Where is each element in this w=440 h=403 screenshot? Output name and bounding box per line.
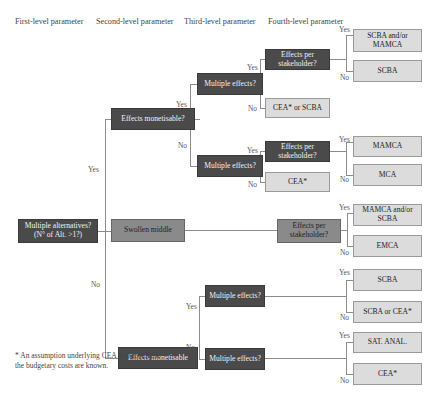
connector: [346, 280, 347, 312]
header-fourth-level: Fourth-level parameter: [268, 17, 343, 26]
label-yes: Yes: [339, 331, 350, 340]
label-no: No: [340, 248, 349, 257]
connector: [346, 342, 353, 343]
label-yes: Yes: [176, 100, 187, 109]
node-swollen-middle: Swollen middle: [111, 219, 185, 242]
connector: [190, 166, 197, 167]
label-no: No: [340, 313, 349, 322]
node-effects-per-stakeholder-2: Effects per stakeholder?: [265, 141, 330, 162]
connector: [330, 151, 346, 152]
label-yes: Yes: [339, 25, 350, 34]
connector: [346, 374, 353, 375]
label-yes: Yes: [339, 203, 350, 212]
outcome-scba-or-cea: SCBA or CEA*: [353, 301, 422, 323]
connector: [195, 119, 200, 120]
node-effects-per-stakeholder-1: Effects per stakeholder?: [265, 49, 330, 70]
label-yes: Yes: [247, 146, 258, 155]
outcome-scba-and-or-mamca: SCBA and/or MAMCA: [353, 29, 422, 52]
outcome-scba-1: SCBA: [353, 60, 422, 82]
label-yes: Yes: [88, 165, 99, 174]
label-no: No: [248, 180, 257, 189]
node-multiple-effects-1: Multiple effects?: [197, 73, 263, 95]
label-yes: Yes: [339, 268, 350, 277]
node-effects-per-stakeholder-3: Effects per stakeholder?: [277, 219, 341, 243]
footnote: * An assumption underlying CEA is that a…: [15, 351, 165, 371]
header-third-level: Third-level parameter: [184, 17, 256, 26]
header-first-level: First-level parameter: [15, 17, 83, 26]
connector: [265, 296, 346, 297]
outcome-emca: EMCA: [353, 235, 422, 257]
label-yes: Yes: [247, 63, 258, 72]
connector: [346, 342, 347, 374]
node-cea: CEA*: [265, 172, 330, 192]
connector: [346, 142, 347, 175]
node-cea-or-scba: CEA* or SCBA: [265, 98, 330, 118]
outcome-scba-2: SCBA: [353, 269, 422, 291]
outcome-mca: MCA: [353, 164, 422, 186]
label-no: No: [186, 343, 195, 352]
label-no: No: [248, 104, 257, 113]
connector: [265, 358, 346, 359]
outcome-mamca-and-or-scba: MAMCA and/or SCBA: [353, 204, 422, 226]
header-second-level: Second-level parameter: [96, 17, 174, 26]
connector: [98, 231, 105, 232]
label-no: No: [340, 376, 349, 385]
label-no: No: [91, 280, 100, 289]
connector: [346, 35, 353, 36]
label-no: No: [340, 175, 349, 184]
node-multiple-effects-4: Multiple effects?: [205, 348, 265, 370]
outcome-cea: CEA*: [353, 363, 422, 385]
connector: [346, 71, 353, 72]
connector: [199, 296, 200, 359]
connector: [330, 59, 346, 60]
connector: [185, 230, 277, 231]
label-yes: Yes: [339, 135, 350, 144]
connector: [190, 84, 197, 85]
outcome-sat-anal: SAT. ANAL.: [353, 332, 422, 353]
label-yes: Yes: [186, 302, 197, 311]
node-multiple-effects-3: Multiple effects?: [205, 285, 265, 307]
node-multiple-alternatives: Multiple alternatives? (N° of Alt. >1?): [18, 219, 98, 243]
node-effects-monetisable-question: Effects monetisable?: [111, 108, 195, 130]
node-multiple-effects-2: Multiple effects?: [197, 155, 263, 177]
connector: [347, 213, 348, 246]
label-no: No: [178, 141, 187, 150]
outcome-mamca: MAMCA: [353, 136, 422, 157]
connector: [346, 35, 347, 72]
label-no: No: [340, 73, 349, 82]
connector: [105, 119, 106, 359]
connector: [346, 280, 353, 281]
